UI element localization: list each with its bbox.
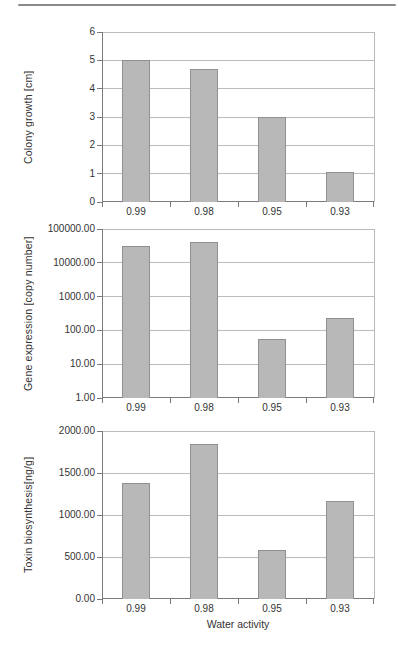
- y-tick-label: 1500.00: [38, 467, 95, 479]
- x-category-label: 0.95: [238, 603, 306, 614]
- bar-0.95: [258, 339, 286, 398]
- gridline: [102, 431, 374, 432]
- y-tick-label: 0.00: [38, 593, 95, 605]
- bar-0.95: [258, 550, 286, 599]
- plot-area-colony-growth: 01234560.990.980.950.93: [102, 32, 375, 202]
- bar-0.98: [190, 242, 218, 398]
- y-tick-label: 100000.00: [38, 223, 95, 235]
- bar-0.93: [326, 318, 354, 398]
- y-tick-label: 1000.00: [38, 291, 95, 303]
- gridline: [102, 32, 374, 33]
- y-tick-label: 500.00: [38, 551, 95, 563]
- x-category-label: 0.99: [102, 402, 170, 413]
- x-category-label: 0.98: [170, 603, 238, 614]
- bar-0.99: [122, 246, 150, 398]
- bar-0.98: [190, 69, 218, 202]
- y-tick-label: 6: [38, 26, 95, 38]
- y-tick-label: 10000.00: [38, 257, 95, 269]
- y-axis-title-gene-expression: Gene expression [copy number]: [20, 229, 36, 398]
- x-category-label: 0.93: [306, 206, 374, 217]
- y-tick-label: 5: [38, 54, 95, 66]
- bar-0.95: [258, 117, 286, 202]
- x-category-label: 0.99: [102, 603, 170, 614]
- bar-0.99: [122, 60, 150, 202]
- bar-0.99: [122, 483, 150, 599]
- figure-page: Colony growth [cm] 01234560.990.980.950.…: [0, 0, 398, 655]
- gridline: [102, 473, 374, 474]
- y-tick-label: 1: [38, 168, 95, 180]
- bar-0.98: [190, 444, 218, 599]
- y-axis-title-colony-growth: Colony growth [cm]: [20, 32, 36, 202]
- y-tick-label: 2000.00: [38, 425, 95, 437]
- bar-0.93: [326, 501, 354, 599]
- x-axis-title: Water activity: [102, 618, 374, 630]
- y-tick-label: 3: [38, 111, 95, 123]
- y-axis-line: [102, 32, 103, 202]
- plot-area-toxin-biosynthesis: 0.00500.001000.001500.002000.000.990.980…: [102, 431, 375, 599]
- x-category-label: 0.98: [170, 206, 238, 217]
- x-category-label: 0.93: [306, 402, 374, 413]
- y-tick-label: 100.00: [38, 324, 95, 336]
- x-category-label: 0.95: [238, 402, 306, 413]
- bar-0.93: [326, 172, 354, 202]
- x-category-label: 0.95: [238, 206, 306, 217]
- y-tick-label: 1000.00: [38, 509, 95, 521]
- y-tick-label: 0: [38, 196, 95, 208]
- y-axis-line: [102, 229, 103, 398]
- x-category-label: 0.99: [102, 206, 170, 217]
- y-axis-line: [102, 431, 103, 599]
- gridline: [102, 229, 374, 230]
- y-axis-title-toxin-biosynthesis: Toxin biosynthesis[ng/g]: [20, 431, 36, 599]
- y-tick-label: 10.00: [38, 358, 95, 370]
- y-tick-label: 1.00: [38, 392, 95, 404]
- plot-area-gene-expression: 1.0010.00100.001000.0010000.00100000.000…: [102, 229, 375, 398]
- x-category-label: 0.98: [170, 402, 238, 413]
- y-tick-label: 4: [38, 83, 95, 95]
- page-header-rule: [18, 4, 396, 6]
- x-category-label: 0.93: [306, 603, 374, 614]
- y-tick-label: 2: [38, 139, 95, 151]
